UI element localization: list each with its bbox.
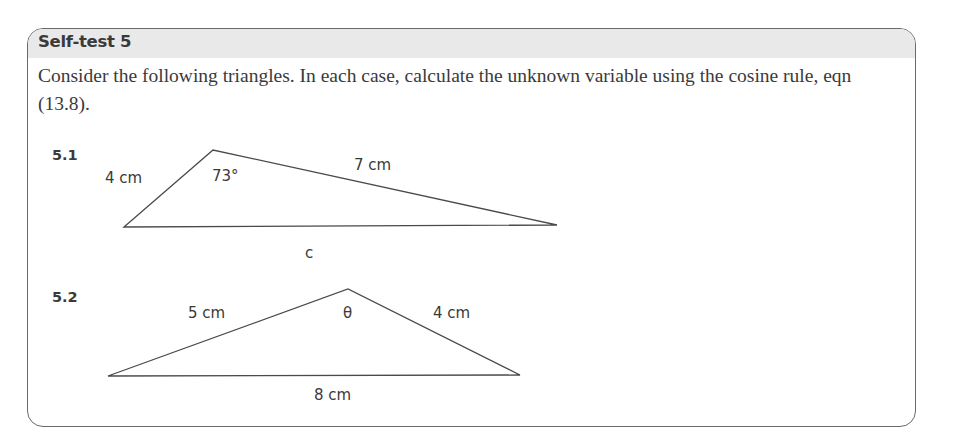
side-label-left-5-1: 4 cm — [105, 169, 142, 187]
base-label-5-1: c — [305, 244, 313, 262]
angle-label-5-2: θ — [343, 304, 352, 322]
triangle-5-1 — [124, 150, 557, 227]
triangle-5-2 — [108, 289, 520, 376]
side-label-right-5-2: 4 cm — [433, 304, 470, 322]
angle-label-5-1: 73° — [212, 167, 239, 185]
triangle-figures — [0, 0, 953, 448]
base-label-5-2: 8 cm — [314, 386, 351, 404]
question-number-5-1: 5.1 — [52, 147, 78, 163]
question-number-5-2: 5.2 — [52, 289, 78, 305]
side-label-right-5-1: 7 cm — [354, 156, 391, 174]
side-label-left-5-2: 5 cm — [188, 304, 225, 322]
